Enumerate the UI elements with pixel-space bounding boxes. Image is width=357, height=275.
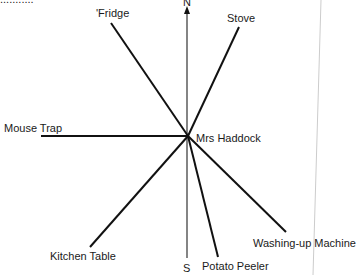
label-washing-up-machine: Washing-up Machine bbox=[253, 237, 356, 249]
spoke-potato-peeler bbox=[188, 136, 218, 257]
south-label: S bbox=[183, 262, 190, 274]
spoke-kitchen-table bbox=[90, 136, 188, 247]
label-fridge: 'Fridge bbox=[96, 7, 129, 19]
north-label: N bbox=[183, 0, 191, 8]
label-kitchen-table: Kitchen Table bbox=[50, 250, 116, 262]
label-potato-peeler: Potato Peeler bbox=[202, 260, 269, 272]
page-edge-line bbox=[313, 0, 321, 275]
spoke-washing-up-machine bbox=[188, 136, 286, 232]
label-stove: Stove bbox=[227, 12, 255, 24]
spoke-fridge bbox=[111, 23, 188, 136]
label-mouse-trap: Mouse Trap bbox=[4, 122, 62, 134]
direction-diagram bbox=[0, 0, 357, 275]
center-label: Mrs Haddock bbox=[196, 132, 261, 144]
spoke-stove bbox=[188, 27, 239, 136]
